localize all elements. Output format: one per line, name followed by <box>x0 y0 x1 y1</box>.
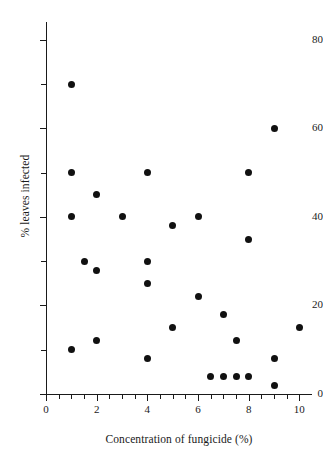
x-tick-3 <box>122 395 123 399</box>
data-point <box>220 311 227 318</box>
data-point <box>169 222 176 229</box>
data-point <box>93 337 100 344</box>
x-tick-label-8: 8 <box>234 404 264 415</box>
x-tick-6 <box>198 395 199 401</box>
y-axis-line <box>46 22 47 395</box>
y-tick-label-60: 60 <box>291 122 323 133</box>
x-tick-0 <box>46 395 47 401</box>
y-tick-label-80: 80 <box>291 34 323 45</box>
data-point <box>144 280 151 287</box>
x-tick-label-0: 0 <box>31 404 61 415</box>
y-tick-30 <box>41 261 46 262</box>
y-tick-40 <box>40 217 46 218</box>
data-point <box>195 293 202 300</box>
x-axis-title: Concentration of fungicide (%) <box>46 433 312 445</box>
data-point <box>271 382 278 389</box>
y-tick-label-0: 0 <box>291 388 323 399</box>
x-tick-7 <box>223 395 224 399</box>
data-point <box>233 337 240 344</box>
data-point <box>207 373 214 380</box>
scatter-plot-figure: 020406080 0246810 Concentration of fungi… <box>0 0 323 458</box>
data-point <box>245 236 252 243</box>
data-point <box>119 213 126 220</box>
x-tick-9 <box>274 395 275 399</box>
data-point <box>195 213 202 220</box>
x-tick-5 <box>173 395 174 399</box>
y-tick-20 <box>40 305 46 306</box>
y-tick-80 <box>40 40 46 41</box>
y-tick-10 <box>41 350 46 351</box>
data-point <box>271 125 278 132</box>
data-point <box>68 169 75 176</box>
x-tick-9.5 <box>287 395 288 399</box>
data-point <box>68 346 75 353</box>
x-tick-4 <box>147 395 148 401</box>
data-point <box>144 258 151 265</box>
x-tick-1.5 <box>84 395 85 399</box>
x-tick-3.5 <box>135 395 136 399</box>
y-tick-label-40: 40 <box>291 211 323 222</box>
data-point <box>233 373 240 380</box>
data-point <box>144 355 151 362</box>
data-point <box>296 324 303 331</box>
data-point <box>169 324 176 331</box>
x-tick-0.5 <box>59 395 60 399</box>
x-tick-1 <box>71 395 72 399</box>
x-axis-line <box>46 394 312 395</box>
data-point <box>93 267 100 274</box>
plot-area: 020406080 0246810 <box>0 0 323 458</box>
y-tick-60 <box>40 128 46 129</box>
x-tick-8.5 <box>261 395 262 399</box>
x-tick-label-6: 6 <box>183 404 213 415</box>
x-tick-4.5 <box>160 395 161 399</box>
y-tick-label-20: 20 <box>291 299 323 310</box>
y-tick-50 <box>41 173 46 174</box>
data-point <box>245 373 252 380</box>
x-tick-7.5 <box>236 395 237 399</box>
y-tick-70 <box>41 84 46 85</box>
data-point <box>271 355 278 362</box>
x-tick-label-4: 4 <box>132 404 162 415</box>
data-point <box>68 213 75 220</box>
y-axis-title: % leaves infected <box>19 116 31 276</box>
data-point <box>93 191 100 198</box>
x-tick-5.5 <box>185 395 186 399</box>
x-tick-2 <box>97 395 98 401</box>
data-point <box>68 81 75 88</box>
data-point <box>144 169 151 176</box>
data-point <box>220 373 227 380</box>
x-tick-6.5 <box>211 395 212 399</box>
x-tick-label-10: 10 <box>284 404 314 415</box>
data-point <box>81 258 88 265</box>
x-tick-8 <box>249 395 250 401</box>
x-tick-label-2: 2 <box>82 404 112 415</box>
data-point <box>245 169 252 176</box>
x-tick-2.5 <box>109 395 110 399</box>
